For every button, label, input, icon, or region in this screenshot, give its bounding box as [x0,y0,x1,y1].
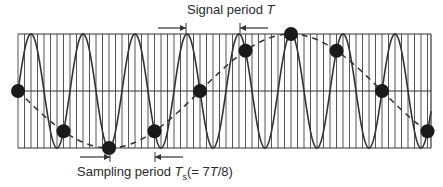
signal-period-text: Signal period [187,2,267,17]
signal-period-label: Signal period T [187,2,274,17]
sampling-period-label: Sampling period Ts(= 7T/8) [77,164,233,182]
sampling-period-text: Sampling period [77,164,175,179]
aliasing-diagram [0,0,443,187]
sampling-eq-symbol: T [210,164,218,179]
signal-period-symbol: T [267,2,275,17]
sampling-period-symbol: T [175,164,183,179]
sampling-eq-suffix: /8) [218,164,233,179]
sampling-eq-prefix: (= 7 [187,164,210,179]
